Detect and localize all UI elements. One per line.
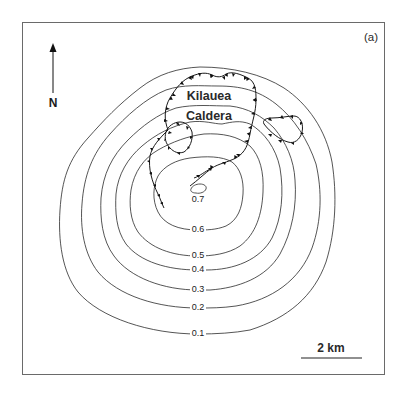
contour-label-0.3: 0.3 [192, 284, 205, 294]
contour-label-0.1: 0.1 [192, 328, 205, 338]
southeast-rift-fault [190, 168, 212, 186]
scale-bar-label: 2 km [317, 341, 344, 355]
contour-label-0.7: 0.7 [192, 194, 205, 204]
north-label: N [49, 96, 58, 110]
north-arrow-icon [50, 43, 57, 52]
place-label-caldera: Caldera [186, 109, 233, 123]
contour-label-0.5: 0.5 [192, 250, 205, 260]
place-label-kilauea: Kilauea [187, 89, 233, 103]
north-arrow: N [49, 43, 58, 110]
contour-label-0.2: 0.2 [192, 302, 205, 312]
scale-bar: 2 km [301, 341, 362, 358]
panel-label: (a) [364, 31, 378, 43]
contour-label-0.4: 0.4 [192, 264, 205, 274]
southwest-rift-fault [149, 130, 168, 208]
contour-map: (a) N 0.7 0.6 0.5 0.4 0.3 0.2 0.1 [0, 0, 405, 394]
east-pit-hachures [268, 115, 304, 145]
contour-labels: 0.7 0.6 0.5 0.4 0.3 0.2 0.1 [190, 194, 206, 339]
contour-0.7 [191, 184, 206, 193]
contour-label-0.6: 0.6 [192, 224, 205, 234]
sw-rift-hachures [147, 138, 163, 205]
